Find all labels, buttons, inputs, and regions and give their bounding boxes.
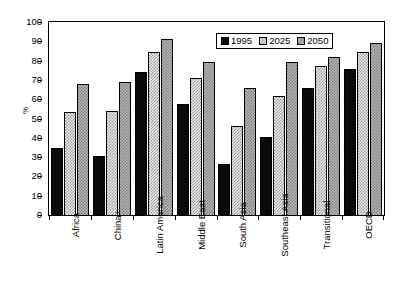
bar: [161, 39, 173, 215]
y-axis-tick-mark: [38, 22, 42, 23]
x-axis-label-slot: Southeast Asia: [258, 221, 300, 301]
y-axis-ticks: 1009080706050403020100: [0, 21, 48, 216]
bar-chart: % 1009080706050403020100 AfricaChina+Lat…: [0, 0, 402, 303]
legend-item: 2025: [259, 36, 290, 46]
bar-group: [91, 22, 133, 215]
bar-group: [342, 22, 384, 215]
x-axis-tick-mark: [175, 216, 176, 220]
x-axis-label-slot: Middle East: [175, 221, 217, 301]
x-axis-tick-mark: [258, 216, 259, 220]
bar: [177, 104, 189, 215]
y-axis-tick-mark: [38, 196, 42, 197]
bar-group: [175, 22, 217, 215]
x-axis-tick-mark: [342, 216, 343, 220]
x-axis-tick-mark: [383, 216, 384, 220]
x-axis-label-slot: Africa: [49, 221, 91, 301]
bar-group: [49, 22, 91, 215]
x-axis-label: Latin America: [154, 196, 165, 254]
x-axis-label: China+: [112, 210, 123, 240]
y-axis-tick-label: 30: [31, 152, 42, 162]
legend: 199520252050: [216, 33, 333, 49]
y-axis-tick-label: 100: [26, 17, 42, 27]
y-axis-tick-label: 40: [31, 133, 42, 143]
bar-group: [217, 22, 259, 215]
bar: [260, 137, 272, 215]
x-axis-tick-mark: [49, 216, 50, 220]
legend-label: 1995: [231, 36, 252, 46]
y-axis-tick-label: 0: [37, 210, 42, 220]
legend-item: 1995: [221, 36, 252, 46]
x-axis-label-slot: China+: [91, 221, 133, 301]
bar: [315, 66, 327, 215]
y-axis-tick-mark: [38, 61, 42, 62]
x-axis-tick-mark: [133, 216, 134, 220]
bar: [190, 78, 202, 215]
legend-swatch: [221, 37, 229, 45]
bar: [344, 69, 356, 215]
legend-swatch: [297, 37, 305, 45]
x-axis-label: Transitional: [321, 201, 332, 250]
y-axis-tick-mark: [38, 157, 42, 158]
bar: [106, 111, 118, 215]
y-axis-tick-mark: [38, 119, 42, 120]
bar: [148, 52, 160, 215]
y-axis-tick-label: 70: [31, 75, 42, 85]
y-axis-tick-label: 60: [31, 94, 42, 104]
bar-group: [258, 22, 300, 215]
y-axis-tick-mark: [38, 176, 42, 177]
x-axis-tick-mark: [300, 216, 301, 220]
bar: [93, 156, 105, 215]
y-axis-tick-label: 50: [31, 114, 42, 124]
x-axis-label-slot: Latin America: [133, 221, 175, 301]
y-axis-tick-label: 90: [31, 36, 42, 46]
legend-label: 2050: [307, 36, 328, 46]
bar: [64, 112, 76, 215]
x-axis-label: Middle East: [196, 200, 207, 250]
y-axis-tick-label: 80: [31, 56, 42, 66]
y-axis-tick-mark: [38, 215, 42, 216]
legend-item: 2050: [297, 36, 328, 46]
bar: [244, 88, 256, 215]
x-axis-label-slot: South Asia: [216, 221, 258, 301]
x-axis-tick-mark: [217, 216, 218, 220]
y-axis-tick-mark: [38, 41, 42, 42]
bar: [203, 62, 215, 215]
bar: [328, 57, 340, 215]
x-axis-labels: AfricaChina+Latin AmericaMiddle EastSout…: [49, 221, 384, 301]
x-axis-label: OECD: [363, 211, 374, 238]
x-axis-label-slot: Transitional: [300, 221, 342, 301]
bar: [357, 52, 369, 215]
bars-layer: [49, 22, 384, 215]
x-axis-label: Africa: [70, 213, 81, 237]
x-axis-label-slot: OECD: [342, 221, 384, 301]
bar: [77, 84, 89, 215]
bar: [286, 62, 298, 215]
y-axis-tick-label: 20: [31, 171, 42, 181]
bar: [370, 43, 382, 215]
y-axis-tick-mark: [38, 80, 42, 81]
x-axis-label: South Asia: [237, 202, 248, 247]
x-axis-tick-mark: [91, 216, 92, 220]
bar: [51, 148, 63, 215]
bar: [218, 164, 230, 215]
legend-swatch: [259, 37, 267, 45]
bar-group: [300, 22, 342, 215]
bar: [302, 88, 314, 215]
y-axis-tick-mark: [38, 99, 42, 100]
bar: [119, 82, 131, 215]
x-axis-label: Southeast Asia: [279, 193, 290, 256]
bar-group: [133, 22, 175, 215]
bar: [135, 72, 147, 215]
y-axis-tick-label: 10: [31, 191, 42, 201]
legend-label: 2025: [269, 36, 290, 46]
y-axis-tick-mark: [38, 138, 42, 139]
